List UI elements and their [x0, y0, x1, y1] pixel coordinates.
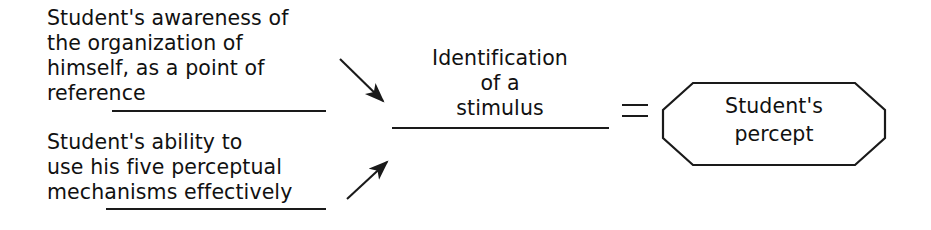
- percept-label: Student's percept: [660, 92, 888, 148]
- ability-underline: [106, 208, 326, 210]
- term-awareness-text: Student's awareness of the organization …: [47, 6, 347, 106]
- equals-bar-top: [622, 104, 648, 106]
- term-identification-text: Identification of a stimulus: [390, 46, 610, 121]
- equals-operator: [622, 96, 652, 124]
- identification-underline: [392, 127, 609, 129]
- awareness-underline: [112, 110, 326, 112]
- diagram-canvas: Student's awareness of the organization …: [0, 0, 931, 230]
- term-ability-text: Student's ability to use his five percep…: [47, 130, 357, 205]
- equals-bar-bottom: [622, 115, 648, 117]
